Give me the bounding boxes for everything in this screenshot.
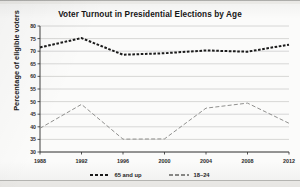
plot-area: 3035404550556065707580 19881992199620002…	[0, 4, 300, 180]
legend-swatch-18-24-icon	[169, 174, 189, 175]
y-axis-ticks-group: 3035404550556065707580	[30, 23, 40, 155]
y-tick-label: 75	[30, 36, 36, 42]
x-tick-label: 1988	[34, 158, 46, 164]
y-tick-label: 65	[30, 61, 36, 67]
x-tick-label: 2008	[242, 158, 254, 164]
x-tick-label: 1996	[117, 158, 129, 164]
legend-item-65-and-up: 65 and up	[90, 172, 141, 178]
y-tick-label: 50	[30, 99, 36, 105]
y-tick-label: 55	[30, 86, 36, 92]
x-tick-label: 2000	[159, 158, 171, 164]
y-tick-label: 35	[30, 136, 36, 142]
y-tick-label: 70	[30, 48, 36, 54]
y-tick-label: 80	[30, 23, 36, 29]
x-axis-ticks-group: 1988199219962000200420082012	[34, 152, 295, 164]
page-bottom-rule	[0, 180, 300, 181]
legend-item-18-24: 18–24	[169, 172, 209, 178]
chart-figure: Voter Turnout in Presidential Elections …	[0, 4, 300, 180]
legend-label-65-and-up: 65 and up	[114, 172, 141, 178]
x-tick-label: 2004	[200, 158, 212, 164]
legend-label-18-24: 18–24	[193, 172, 209, 178]
scanned-page: Voter Turnout in Presidential Elections …	[0, 0, 300, 187]
x-tick-label: 2012	[283, 158, 295, 164]
series-line-65-and-up	[40, 38, 289, 55]
series-line-18-24	[40, 103, 289, 139]
y-tick-label: 45	[30, 111, 36, 117]
x-tick-label: 1992	[76, 158, 88, 164]
legend-swatch-65-and-up-icon	[90, 174, 110, 177]
y-tick-label: 30	[30, 149, 36, 155]
gridlines-group	[40, 26, 289, 152]
y-tick-label: 40	[30, 124, 36, 130]
y-tick-label: 60	[30, 73, 36, 79]
page-top-rule	[0, 0, 300, 1]
data-series-group	[40, 38, 289, 139]
